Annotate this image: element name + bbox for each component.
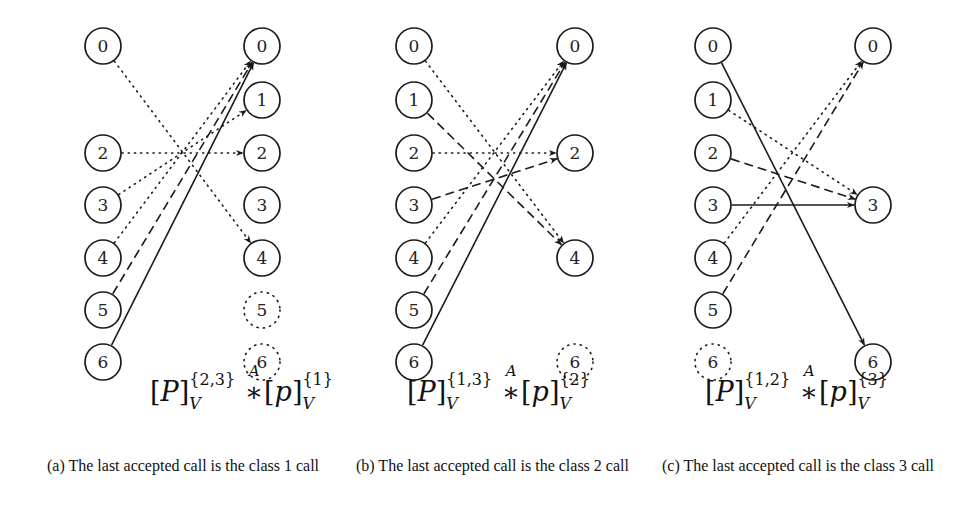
formula-left-sup: {2,3} — [189, 372, 235, 388]
formula-right-sub: V — [559, 396, 590, 412]
edge-solid-6-to-0 — [423, 63, 567, 345]
right-node-3: 3 — [855, 187, 891, 223]
node-label: 5 — [98, 300, 109, 320]
panel-b-graph: 01234560246 — [396, 28, 593, 380]
right-node-2: 2 — [557, 135, 593, 171]
formula-operator: A∗ — [800, 376, 818, 407]
node-label: 3 — [868, 195, 879, 215]
right-node-2: 2 — [244, 135, 280, 171]
formula-right-sub: V — [857, 396, 888, 412]
left-node-4: 4 — [85, 240, 121, 276]
left-node-3: 3 — [85, 187, 121, 223]
node-label: 6 — [570, 352, 581, 372]
formula-P: P — [716, 376, 734, 407]
panel-c-formula: [P]{1,2}V A∗[p]{3}V — [705, 376, 888, 410]
node-label: 1 — [409, 90, 420, 110]
panel-a-formula: [P]{2,3}V A∗[p]{1}V — [150, 376, 333, 410]
formula-p: p — [275, 376, 292, 407]
formula-left-sub: V — [189, 396, 235, 412]
node-label: 0 — [98, 36, 109, 56]
node-label: 4 — [409, 248, 420, 268]
edge-dashed-5-to-0 — [723, 62, 863, 294]
formula-right-sub: V — [302, 396, 333, 412]
edge-solid-6-to-0 — [112, 63, 254, 345]
node-label: 6 — [708, 352, 719, 372]
node-label: 3 — [257, 195, 268, 215]
left-node-2: 2 — [85, 135, 121, 171]
node-label: 2 — [570, 143, 581, 163]
panel-a-graph: 0234560123456 — [85, 28, 280, 380]
formula-left-sub: V — [744, 396, 790, 412]
formula-star: ∗ — [245, 376, 263, 407]
right-node-1: 1 — [244, 82, 280, 118]
left-node-2: 2 — [695, 135, 731, 171]
left-node-5: 5 — [695, 292, 731, 328]
edge-dashed-5-to-0 — [113, 62, 252, 293]
right-node-0: 0 — [557, 28, 593, 64]
node-label: 0 — [868, 36, 879, 56]
formula-right-sup: {1} — [302, 372, 333, 388]
node-label: 0 — [570, 36, 581, 56]
right-node-3: 3 — [244, 187, 280, 223]
node-label: 2 — [98, 143, 109, 163]
node-label: 6 — [98, 352, 109, 372]
node-label: 5 — [409, 300, 420, 320]
node-label: 0 — [708, 36, 719, 56]
left-node-4: 4 — [695, 240, 731, 276]
state-transition-diagram: 0234560123456 01234560246 0123456036 — [0, 0, 971, 513]
formula-op-over: A — [249, 362, 260, 380]
edge-dashed-5-to-0 — [424, 62, 565, 294]
panel-c-graph: 0123456036 — [695, 28, 891, 380]
node-label: 2 — [257, 143, 268, 163]
formula-op-over: A — [804, 362, 815, 380]
formula-operator: A∗ — [502, 376, 520, 407]
panel-c-caption: (c) The last accepted call is the class … — [662, 454, 940, 477]
node-label: 5 — [708, 300, 719, 320]
node-label: 2 — [409, 143, 420, 163]
formula-left-sup: {1,3} — [446, 372, 492, 388]
left-node-1: 1 — [695, 82, 731, 118]
left-node-6: 6 — [695, 344, 731, 380]
left-node-5: 5 — [396, 292, 432, 328]
edge-dotted-4-to-0 — [724, 61, 861, 243]
right-node-4: 4 — [557, 240, 593, 276]
left-node-1: 1 — [396, 82, 432, 118]
formula-right-sup: {2} — [559, 372, 590, 388]
formula-right-sup: {3} — [857, 372, 888, 388]
panel-b-caption: (b) The last accepted call is the class … — [356, 454, 646, 477]
node-label: 4 — [570, 248, 581, 268]
formula-star: ∗ — [502, 376, 520, 407]
node-label: 1 — [708, 90, 719, 110]
node-label: 1 — [257, 90, 268, 110]
node-label: 4 — [98, 248, 109, 268]
node-label: 3 — [708, 195, 719, 215]
right-node-4: 4 — [244, 240, 280, 276]
left-node-2: 2 — [396, 135, 432, 171]
left-node-6: 6 — [85, 344, 121, 380]
right-node-0: 0 — [855, 28, 891, 64]
formula-P: P — [161, 376, 179, 407]
formula-p: p — [532, 376, 549, 407]
left-node-0: 0 — [396, 28, 432, 64]
left-node-4: 4 — [396, 240, 432, 276]
formula-operator: A∗ — [245, 376, 263, 407]
left-node-3: 3 — [396, 187, 432, 223]
left-node-0: 0 — [85, 28, 121, 64]
panel-b-formula: [P]{1,3}V A∗[p]{2}V — [407, 376, 590, 410]
node-label: 0 — [409, 36, 420, 56]
left-node-6: 6 — [396, 344, 432, 380]
node-label: 5 — [257, 300, 268, 320]
formula-left-sup: {1,2} — [744, 372, 790, 388]
node-label: 3 — [409, 195, 420, 215]
right-node-0: 0 — [244, 28, 280, 64]
node-label: 0 — [257, 36, 268, 56]
left-node-0: 0 — [695, 28, 731, 64]
panel-a-caption: (a) The last accepted call is the class … — [47, 454, 331, 477]
formula-star: ∗ — [800, 376, 818, 407]
edge-solid-0-to-6 — [722, 63, 865, 345]
node-label: 4 — [257, 248, 268, 268]
left-node-3: 3 — [695, 187, 731, 223]
formula-op-over: A — [506, 362, 517, 380]
formula-left-sub: V — [446, 396, 492, 412]
left-node-5: 5 — [85, 292, 121, 328]
